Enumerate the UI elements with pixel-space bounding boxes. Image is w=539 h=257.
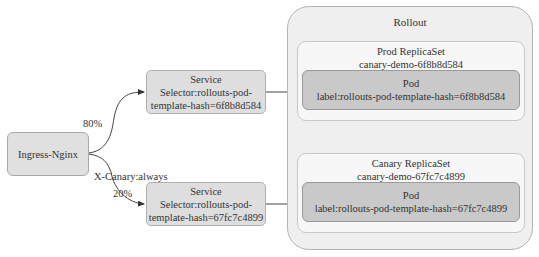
stable-service-node: Service Selector:rollouts-pod- template-… — [146, 70, 266, 114]
service-selector-line1: Selector:rollouts-pod- — [147, 198, 265, 211]
ingress-label: Ingress-Nginx — [18, 148, 78, 161]
canary-service-node: Service Selector:rollouts-pod- template-… — [146, 182, 266, 226]
prod-pod: Pod label:rollouts-pod-template-hash=6f8… — [302, 70, 520, 110]
service-selector-line2: template-hash=6f8b8d584 — [147, 99, 265, 112]
pod-label: label:rollouts-pod-template-hash=67fc7c4… — [303, 202, 519, 215]
pod-label: label:rollouts-pod-template-hash=6f8b8d5… — [303, 90, 519, 103]
canary-weight-label: 20% — [113, 188, 132, 199]
service-selector-line2: template-hash=67fc7c4899 — [147, 211, 265, 224]
service-selector-line1: Selector:rollouts-pod- — [147, 86, 265, 99]
rollout-title: Rollout — [288, 16, 532, 29]
stable-weight-label: 80% — [83, 118, 102, 129]
pod-title: Pod — [303, 189, 519, 202]
ingress-nginx-node: Ingress-Nginx — [7, 132, 89, 176]
pod-title: Pod — [303, 77, 519, 90]
replicaset-title: Prod ReplicaSet — [298, 45, 524, 58]
service-title: Service — [147, 73, 265, 86]
service-title: Service — [147, 185, 265, 198]
canary-header-label: X-Canary:always — [94, 171, 167, 182]
replicaset-title: Canary ReplicaSet — [298, 157, 524, 170]
canary-pod: Pod label:rollouts-pod-template-hash=67f… — [302, 182, 520, 222]
